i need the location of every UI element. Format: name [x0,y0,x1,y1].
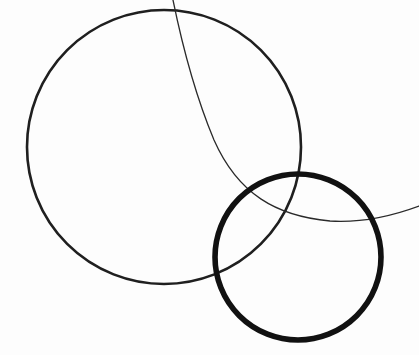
drawing-canvas: Three overlapping hand-drawn circles A s… [0,0,419,355]
figure-svg [0,0,419,355]
